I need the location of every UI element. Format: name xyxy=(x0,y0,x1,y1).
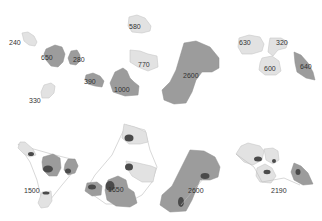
blob xyxy=(296,169,301,175)
label-2600-top: 2600 xyxy=(183,72,199,79)
blob xyxy=(88,185,96,190)
shape-top-right xyxy=(264,148,279,164)
blob xyxy=(65,169,71,174)
label-650: 650 xyxy=(41,54,53,61)
label-580: 580 xyxy=(129,23,141,30)
blob xyxy=(264,170,271,174)
label-280: 280 xyxy=(73,56,85,63)
label-390: 390 xyxy=(84,78,96,85)
label-2600-bottom: 2600 xyxy=(188,187,204,194)
cartogram-diagram: 240 650 280 390 330 580 770 1000 2600 63… xyxy=(0,0,322,221)
shape-right xyxy=(291,163,313,185)
label-600: 600 xyxy=(264,65,276,72)
label-1500: 1500 xyxy=(24,187,40,194)
blob xyxy=(254,157,262,162)
top-center-cluster: 580 770 1000 2600 xyxy=(110,15,219,104)
label-770: 770 xyxy=(138,61,150,68)
top-right-cluster: 630 320 600 640 xyxy=(238,35,315,80)
label-1000: 1000 xyxy=(114,86,130,93)
shape-2600-bottom xyxy=(160,150,220,212)
shape-240 xyxy=(22,32,37,46)
bottom-panel-1500: 1500 xyxy=(18,142,78,208)
shape-330 xyxy=(41,83,55,98)
blob xyxy=(178,197,184,207)
label-630: 630 xyxy=(239,39,251,46)
shape-center xyxy=(42,154,61,176)
label-320: 320 xyxy=(276,39,288,46)
bottom-panel-2600: 2600 xyxy=(160,150,220,212)
bottom-panel-2190: 2190 xyxy=(236,143,313,194)
label-1650: 1650 xyxy=(108,186,124,193)
label-2190: 2190 xyxy=(271,187,287,194)
blob xyxy=(28,152,34,156)
label-330: 330 xyxy=(29,97,41,104)
label-240: 240 xyxy=(9,39,21,46)
blob xyxy=(201,173,210,179)
blob xyxy=(43,192,50,195)
blob xyxy=(125,135,134,142)
blob xyxy=(272,159,276,163)
shape-left xyxy=(236,143,264,165)
blob xyxy=(125,164,133,171)
bottom-panel-1650: 1650 xyxy=(85,124,157,207)
shape-top xyxy=(122,124,148,144)
label-640: 640 xyxy=(300,63,312,70)
top-left-cluster: 240 650 280 390 330 xyxy=(9,32,104,104)
blob xyxy=(43,166,53,173)
